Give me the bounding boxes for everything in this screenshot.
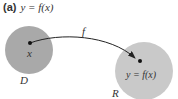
domain-point [28, 41, 32, 45]
range-set-label: R [111, 87, 119, 99]
mapping-diagram: x f y = f(x) D R [0, 0, 178, 99]
domain-set-label: D [19, 74, 28, 86]
arrow-label: f [82, 25, 87, 37]
range-point-label: y = f(x) [125, 69, 157, 81]
domain-point-label: x [26, 47, 32, 59]
range-point [138, 59, 142, 63]
